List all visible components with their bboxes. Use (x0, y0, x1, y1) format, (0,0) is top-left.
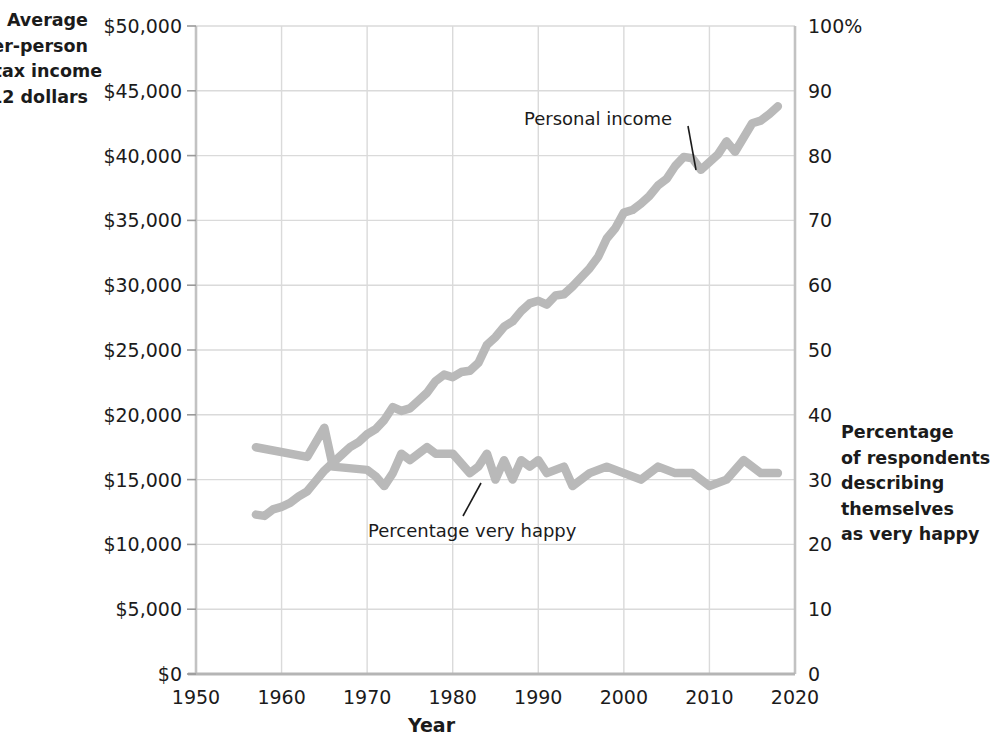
x-axis-tick-label: 1980 (408, 686, 498, 708)
y-axis-right-tick-label: 20 (808, 533, 878, 555)
x-axis-tick-label: 1960 (237, 686, 327, 708)
leader-line-1 (463, 483, 481, 516)
y-axis-left-tick-label: $5,000 (62, 598, 182, 620)
y-axis-left-tick-label: $15,000 (62, 469, 182, 491)
y-axis-left-tick-label: $40,000 (62, 145, 182, 167)
y-axis-right-tick-label: 100% (808, 15, 878, 37)
y-axis-left-tick-label: $25,000 (62, 339, 182, 361)
x-axis-tick-label: 2020 (750, 686, 840, 708)
x-axis-tick-label: 1970 (322, 686, 412, 708)
y-axis-right-tick-label: 70 (808, 209, 878, 231)
y-axis-right-tick-label: 60 (808, 274, 878, 296)
y-axis-left-tick-label: $0 (62, 663, 182, 685)
x-axis-title: Year (0, 714, 863, 736)
y-axis-right-tick-label: 80 (808, 145, 878, 167)
series-label-percentage-very-happy: Percentage very happy (368, 520, 576, 541)
series-label-personal-income: Personal income (524, 108, 672, 129)
series-lines (256, 106, 778, 516)
y-axis-left-tick-label: $10,000 (62, 533, 182, 555)
y-axis-right-tick-label: 10 (808, 598, 878, 620)
x-axis-tick-label: 2010 (664, 686, 754, 708)
y-axis-left-tick-label: $30,000 (62, 274, 182, 296)
x-axis-tick-label: 1950 (151, 686, 241, 708)
y-axis-left-tick-label: $45,000 (62, 80, 182, 102)
y-axis-right-tick-label: 30 (808, 469, 878, 491)
series-line-percentage-very-happy (256, 428, 778, 486)
y-axis-right-labels: 0102030405060708090100% (808, 0, 878, 747)
x-axis-tick-label: 1990 (493, 686, 583, 708)
x-axis-tick-label: 2000 (579, 686, 669, 708)
y-axis-right-tick-label: 0 (808, 663, 878, 685)
y-axis-left-tick-label: $20,000 (62, 404, 182, 426)
y-axis-right-tick-label: 40 (808, 404, 878, 426)
y-axis-left-tick-label: $50,000 (62, 15, 182, 37)
y-axis-left-labels: $0$5,000$10,000$15,000$20,000$25,000$30,… (62, 0, 182, 747)
y-axis-left-tick-label: $35,000 (62, 209, 182, 231)
gridlines (196, 26, 795, 674)
y-axis-right-tick-label: 90 (808, 80, 878, 102)
tick-marks (187, 26, 196, 674)
y-axis-right-tick-label: 50 (808, 339, 878, 361)
